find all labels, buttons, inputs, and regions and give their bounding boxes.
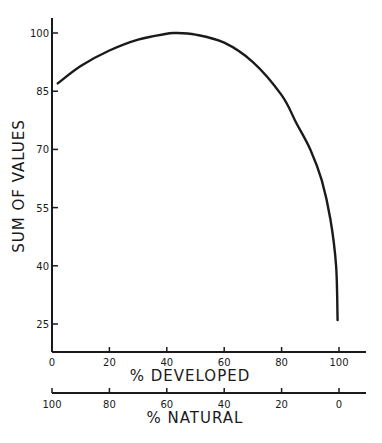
y-tick-label: 40 [36,261,49,272]
chart-figure: 2540557085100 SUM OF VALUES 020406080100… [0,0,382,443]
y-tick-label: 85 [36,86,49,97]
y-tick-label: 70 [36,144,49,155]
x2-tick-label: 100 [42,399,61,410]
x-axis-ticks: 020406080100 [49,347,349,368]
x-axis-title: % DEVELOPED [130,367,251,385]
sum-of-values-curve [58,33,338,320]
y-axis-ticks: 2540557085100 [30,28,58,330]
y-tick-label: 25 [36,319,49,330]
y-axis-title: SUM OF VALUES [10,119,28,253]
x2-axis-title: % NATURAL [147,409,244,427]
y-tick-label: 55 [36,203,49,214]
x-tick-label: 0 [49,357,55,368]
x2-tick-label: 0 [336,399,342,410]
x-tick-label: 80 [275,357,288,368]
x2-axis-ticks: 100806040200 [42,388,342,410]
x2-tick-label: 20 [275,399,288,410]
x-tick-label: 100 [329,357,348,368]
y-tick-label: 100 [30,28,49,39]
x-tick-label: 20 [103,357,116,368]
x2-tick-label: 80 [103,399,116,410]
